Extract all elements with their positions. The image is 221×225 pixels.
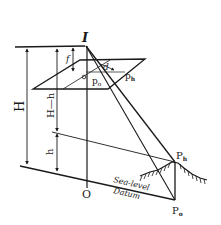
label-image-top: ph [125,71,136,82]
object-top-level-line [52,132,175,162]
label-H-minus-h: H—h [45,92,56,118]
label-displacement: d [103,62,109,72]
ray-to-object-base [86,46,175,200]
label-ground-nadir: O [82,188,91,201]
label-focal-length: f [65,54,71,64]
label-h: h [44,148,55,155]
label-image-base: po [92,76,102,87]
label-H: H [12,101,27,112]
label-exposure-station: I [81,30,89,45]
relief-displacement-diagram: I f H H—h h d po ph O Ph Po Sea-level Da… [0,0,221,225]
terrain-profile [140,162,207,184]
flight-level-line [15,46,85,47]
label-object-top: Ph [176,150,188,162]
label-object-base: Po [172,205,183,217]
ray-to-object-top [86,46,175,162]
